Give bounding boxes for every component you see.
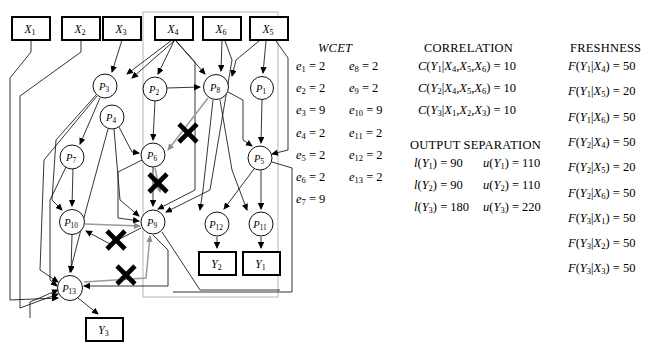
figure-canvas: P3P2P8P1P4P6P7P5P10P9P12P11P13 X1X2X3X4X… (0, 0, 670, 351)
process-node-p6: P6 (141, 143, 165, 167)
cancel-x-icon (107, 231, 125, 249)
cancel-x-icon (117, 266, 135, 284)
process-node-p3: P3 (93, 74, 117, 98)
wcet-entry: e5 = 2 (296, 148, 325, 163)
input-box-x3: X3 (103, 17, 141, 40)
output-box-y1: Y1 (243, 252, 280, 275)
wcet-title: WCET (318, 41, 352, 55)
cancel-x-icon (149, 174, 167, 192)
output-separation-title: OUTPUT SEPARATION (410, 138, 541, 152)
correlation-entry: C(Y2|X4,X5,X6) = 10 (418, 81, 516, 96)
output-separation-upper: u(Y1) = 110 (483, 156, 540, 171)
freshness-entry: F(Y2|X4) = 50 (568, 135, 635, 150)
freshness-entry: F(Y3|X2) = 50 (568, 236, 635, 251)
correlation-title-wrap: CORRELATION (424, 38, 513, 56)
wcet-entry: e12 = 2 (349, 148, 383, 163)
freshness-title: FRESHNESS (570, 41, 641, 55)
freshness-entry: F(Y2|X6) = 50 (568, 186, 635, 201)
output-separation-upper: u(Y3) = 220 (483, 200, 541, 215)
wcet-entry: e11 = 2 (349, 126, 382, 141)
process-node-p13: P13 (58, 276, 83, 301)
input-box-x6: X6 (203, 17, 241, 40)
input-box-x4: X4 (155, 17, 193, 40)
freshness-entry: F(Y1|X4) = 50 (568, 59, 635, 74)
wcet-title-wrap: WCET (318, 38, 352, 56)
correlation-title: CORRELATION (424, 41, 513, 55)
wcet-entry: e4 = 2 (296, 126, 325, 141)
process-node-p7: P7 (60, 145, 84, 169)
process-node-p4: P4 (100, 105, 124, 129)
wcet-entry: e2 = 2 (296, 81, 325, 96)
output-separation-lower: l(Y1) = 90 (414, 156, 463, 171)
freshness-entry: F(Y1|X6) = 50 (568, 110, 635, 125)
output-separation-upper: u(Y2) = 110 (483, 178, 540, 193)
output-separation-lower: l(Y2) = 90 (414, 178, 463, 193)
wcet-entry: e10 = 9 (349, 103, 383, 118)
output-separation-title-wrap: OUTPUT SEPARATION (410, 135, 541, 153)
wcet-entry: e6 = 2 (296, 170, 325, 185)
correlation-entry: C(Y3|X1,X2,X3) = 10 (418, 103, 516, 118)
process-node-p5: P5 (248, 146, 272, 170)
output-box-y2: Y2 (199, 252, 236, 275)
process-node-p11: P11 (249, 212, 273, 236)
freshness-entry: F(Y1|X5) = 20 (568, 84, 635, 99)
process-node-p2: P2 (143, 77, 167, 101)
process-node-p1: P1 (251, 77, 274, 100)
wcet-entry: e8 = 2 (349, 59, 378, 74)
wcet-entry: e13 = 2 (349, 170, 383, 185)
input-box-x1: X1 (12, 17, 50, 40)
process-node-p9: P9 (141, 210, 165, 234)
freshness-entry: F(Y3|X1) = 50 (568, 211, 635, 226)
process-node-p12: P12 (205, 212, 229, 236)
wcet-entry: e3 = 9 (296, 103, 325, 118)
output-separation-lower: l(Y3) = 180 (414, 200, 469, 215)
wcet-entry: e9 = 2 (349, 81, 378, 96)
freshness-entry: F(Y3|X3) = 50 (568, 261, 635, 276)
cancelled-edge-layer (84, 98, 208, 282)
freshness-entry: F(Y2|X5) = 20 (568, 160, 635, 175)
freshness-title-wrap: FRESHNESS (570, 38, 641, 56)
wcet-entry: e1 = 2 (296, 59, 325, 74)
input-box-x5: X5 (250, 17, 288, 40)
process-node-p8: P8 (204, 75, 229, 100)
input-box-x2: X2 (62, 17, 100, 40)
process-node-p10: P10 (60, 210, 85, 235)
output-box-y3: Y3 (86, 318, 123, 341)
correlation-entry: C(Y1|X4,X5,X6) = 10 (418, 59, 516, 74)
wcet-entry: e7 = 9 (296, 192, 325, 207)
